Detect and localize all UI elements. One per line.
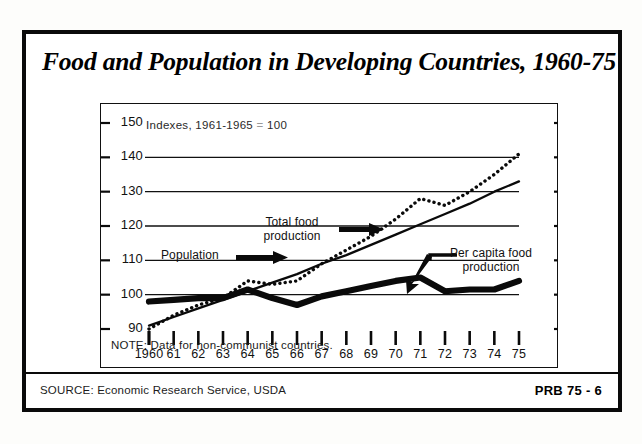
y-axis-label-110: 110 (109, 251, 143, 266)
y-axis-label-140: 140 (109, 148, 143, 163)
x-axis-label-1975: 75 (499, 347, 539, 361)
y-axis-label-130: 130 (109, 183, 143, 198)
annotation-per-capita-line1: Per capita food (439, 247, 543, 261)
annotation-per-capita: Per capita food production (439, 247, 543, 274)
total-food-arrow (339, 223, 384, 236)
y-axis-label-120: 120 (109, 217, 143, 232)
y-axis-label-100: 100 (109, 286, 143, 301)
annotation-population: Population (161, 249, 219, 263)
population-arrow (236, 251, 288, 264)
chart-panel: Indexes, 1961-1965 = 100 Total food prod… (100, 103, 558, 368)
annotation-total-food-line2: production (246, 230, 338, 244)
annotation-total-food: Total food production (246, 216, 338, 243)
annotation-population-label: Population (161, 249, 219, 263)
y-axis-label-150: 150 (109, 114, 143, 129)
right-tick-group (554, 123, 558, 329)
source-label: SOURCE: Economic Research Service, USDA (40, 384, 286, 396)
annotation-total-food-line1: Total food (246, 216, 338, 230)
y-axis-label-90: 90 (109, 320, 143, 335)
chart-footer: SOURCE: Economic Research Service, USDA … (26, 372, 618, 410)
page-title: Food and Population in Developing Countr… (42, 45, 608, 79)
annotation-per-capita-line2: production (439, 261, 543, 275)
series-per-capita-food-production (149, 278, 519, 305)
chart-page: Food and Population in Developing Countr… (0, 0, 642, 444)
publication-code: PRB 75 - 6 (535, 383, 602, 398)
